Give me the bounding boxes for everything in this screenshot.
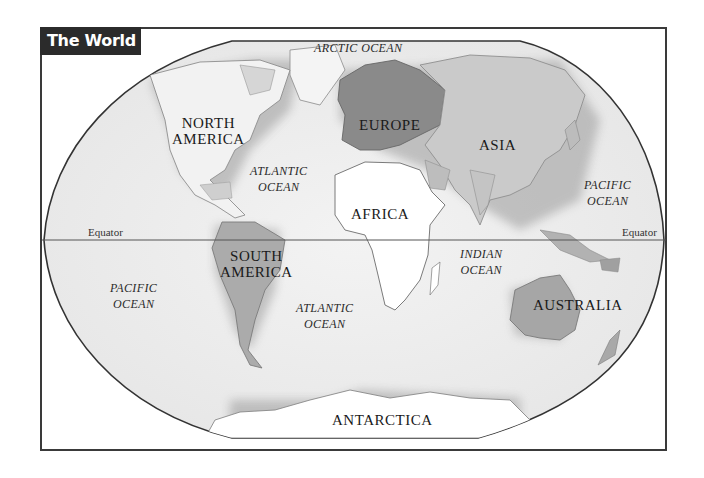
label-pacific-ocean-west: PACIFIC OCEAN bbox=[110, 280, 157, 312]
label-south-america: SOUTH AMERICA bbox=[220, 248, 293, 280]
label-north-america: NORTH AMERICA bbox=[172, 115, 245, 147]
label-arctic-ocean: ARCTIC OCEAN bbox=[314, 40, 402, 56]
label-indian-ocean: INDIAN OCEAN bbox=[460, 246, 502, 278]
label-atlantic-ocean-south: ATLANTIC OCEAN bbox=[296, 300, 353, 332]
label-europe: EUROPE bbox=[359, 117, 420, 133]
label-equator-left: Equator bbox=[88, 226, 123, 238]
label-asia: ASIA bbox=[479, 137, 516, 153]
label-antarctica: ANTARCTICA bbox=[332, 412, 432, 428]
label-pacific-ocean-east: PACIFIC OCEAN bbox=[584, 177, 631, 209]
label-africa: AFRICA bbox=[351, 206, 409, 222]
label-equator-right: Equator bbox=[622, 226, 657, 238]
label-australia: AUSTRALIA bbox=[533, 297, 623, 313]
label-atlantic-ocean-north: ATLANTIC OCEAN bbox=[250, 163, 307, 195]
map-title: The World bbox=[40, 27, 141, 55]
world-map bbox=[0, 0, 704, 478]
